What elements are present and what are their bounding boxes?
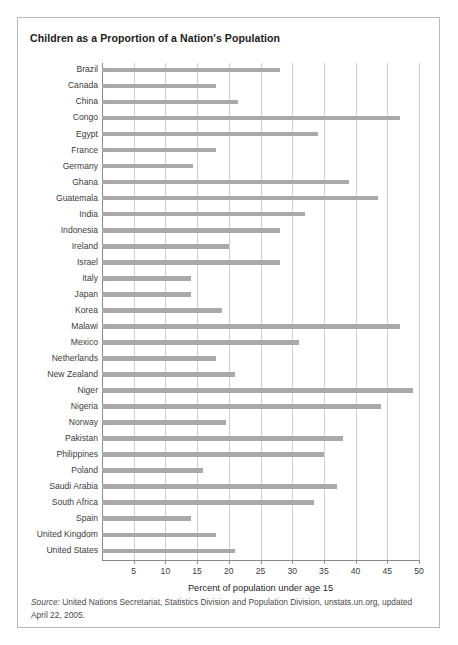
bar-row[interactable]: Italy <box>102 271 419 287</box>
tick-mark <box>292 560 293 564</box>
bar-row[interactable]: Egypt <box>102 127 419 143</box>
bar[interactable] <box>102 484 337 489</box>
tick-mark <box>229 560 230 564</box>
bar[interactable] <box>102 244 229 249</box>
bar-row[interactable]: Congo <box>102 111 419 127</box>
bar-row[interactable]: Israel <box>102 255 419 271</box>
bar[interactable] <box>102 292 191 297</box>
bar-row[interactable]: Saudi Arabia <box>102 480 419 496</box>
tick-label: 10 <box>161 566 171 576</box>
bar[interactable] <box>102 116 400 121</box>
tick-label: 20 <box>224 566 234 576</box>
bar-row[interactable]: Spain <box>102 512 419 528</box>
tick-label: 35 <box>319 566 329 576</box>
bar[interactable] <box>102 549 235 554</box>
bar[interactable] <box>102 404 381 409</box>
tick-label: 45 <box>383 566 393 576</box>
bar-row[interactable]: Ireland <box>102 239 419 255</box>
bar-row[interactable]: China <box>102 95 419 111</box>
bar[interactable] <box>102 452 324 457</box>
category-label: Saudi Arabia <box>49 480 98 492</box>
bar[interactable] <box>102 420 226 425</box>
bar-row[interactable]: United States <box>102 544 419 560</box>
bar-row[interactable]: Poland <box>102 464 419 480</box>
tick-label: 50 <box>414 566 424 576</box>
bar[interactable] <box>102 100 238 105</box>
bar-row[interactable]: South Africa <box>102 496 419 512</box>
bar[interactable] <box>102 68 280 73</box>
tick-mark <box>134 560 135 564</box>
bar-row[interactable]: Philippines <box>102 448 419 464</box>
category-label: Brazil <box>77 63 99 75</box>
bar[interactable] <box>102 516 191 521</box>
bar-row[interactable]: Japan <box>102 287 419 303</box>
category-label: France <box>71 144 98 156</box>
bar[interactable] <box>102 132 318 137</box>
bar[interactable] <box>102 436 343 441</box>
bar-row[interactable]: France <box>102 143 419 159</box>
category-label: Indonesia <box>61 224 98 236</box>
bar-row[interactable]: United Kingdom <box>102 528 419 544</box>
bar-row[interactable]: Nigeria <box>102 400 419 416</box>
source-label: Source: <box>31 597 60 607</box>
bar[interactable] <box>102 372 235 377</box>
category-label: Ireland <box>72 240 98 252</box>
bar-row[interactable]: Guatemala <box>102 191 419 207</box>
bar-row[interactable]: Brazil <box>102 63 419 79</box>
bar-row[interactable]: Niger <box>102 384 419 400</box>
bar[interactable] <box>102 276 191 281</box>
category-label: New Zealand <box>47 368 98 380</box>
bar-row[interactable]: Netherlands <box>102 352 419 368</box>
bar[interactable] <box>102 533 216 538</box>
category-label: Congo <box>73 111 98 123</box>
category-label: Netherlands <box>52 352 98 364</box>
bar[interactable] <box>102 388 413 393</box>
bar[interactable] <box>102 340 299 345</box>
figure-card: Children as a Proportion of a Nation's P… <box>17 17 440 628</box>
bar-row[interactable]: Pakistan <box>102 432 419 448</box>
plot-area: BrazilCanadaChinaCongoEgyptFranceGermany… <box>102 63 419 560</box>
bar-row[interactable]: Canada <box>102 79 419 95</box>
gridline <box>419 63 420 560</box>
category-label: Poland <box>71 464 98 476</box>
source-note: Source: United Nations Secretariat, Stat… <box>31 596 426 621</box>
bar[interactable] <box>102 180 349 185</box>
bar-row[interactable]: Korea <box>102 303 419 319</box>
tick-mark <box>197 560 198 564</box>
bar[interactable] <box>102 356 216 361</box>
category-label: United States <box>46 544 98 556</box>
category-label: Spain <box>76 512 98 524</box>
category-label: Niger <box>77 384 98 396</box>
category-label: Malawi <box>71 320 98 332</box>
bar[interactable] <box>102 84 216 89</box>
bar[interactable] <box>102 148 216 153</box>
category-label: Italy <box>82 272 98 284</box>
bar[interactable] <box>102 164 193 169</box>
category-label: China <box>76 95 98 107</box>
tick-label: 15 <box>192 566 202 576</box>
bar[interactable] <box>102 308 222 313</box>
bar[interactable] <box>102 324 400 329</box>
bar[interactable] <box>102 260 280 265</box>
bar[interactable] <box>102 500 314 505</box>
category-label: Ghana <box>72 176 98 188</box>
category-label: United Kingdom <box>37 528 98 540</box>
category-label: Philippines <box>56 448 98 460</box>
tick-label: 25 <box>256 566 266 576</box>
category-label: Korea <box>75 304 98 316</box>
bar-row[interactable]: India <box>102 207 419 223</box>
bar-row[interactable]: New Zealand <box>102 368 419 384</box>
bar-row[interactable]: Malawi <box>102 320 419 336</box>
tick-mark <box>261 560 262 564</box>
bar-row[interactable]: Germany <box>102 159 419 175</box>
bar[interactable] <box>102 468 203 473</box>
bar-row[interactable]: Mexico <box>102 336 419 352</box>
bar[interactable] <box>102 196 378 201</box>
bar[interactable] <box>102 212 305 217</box>
tick-mark <box>419 560 420 564</box>
bar-row[interactable]: Norway <box>102 416 419 432</box>
bar-row[interactable]: Ghana <box>102 175 419 191</box>
bar[interactable] <box>102 228 280 233</box>
bar-row[interactable]: Indonesia <box>102 223 419 239</box>
category-label: Pakistan <box>65 432 98 444</box>
